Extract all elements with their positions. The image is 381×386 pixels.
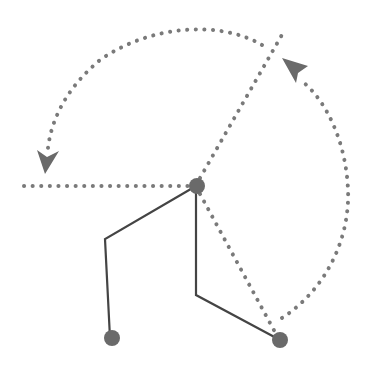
arrowhead-down-icon	[37, 150, 59, 174]
right-rotation-arc	[282, 82, 348, 318]
rotation-diagram	[0, 0, 381, 386]
pivot-node	[189, 178, 205, 194]
arrowhead-up-icon	[282, 58, 308, 83]
top-rotation-arc	[48, 29, 262, 148]
upper-reference-line	[200, 33, 283, 178]
left-limb-path	[105, 186, 196, 338]
lower-reference-line	[200, 194, 276, 334]
left-end-node	[104, 330, 120, 346]
right-end-node	[272, 332, 288, 348]
